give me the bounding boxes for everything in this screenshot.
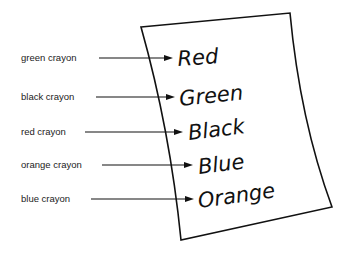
- label-3: red crayon: [21, 126, 66, 137]
- label-4: orange crayon: [21, 159, 82, 170]
- label-1: green crayon: [21, 52, 76, 63]
- label-2: black crayon: [21, 91, 74, 102]
- diagram: Red Green Black Blue Orange green crayon…: [0, 0, 351, 261]
- word-1: Red: [177, 44, 220, 71]
- label-5: blue crayon: [21, 193, 70, 204]
